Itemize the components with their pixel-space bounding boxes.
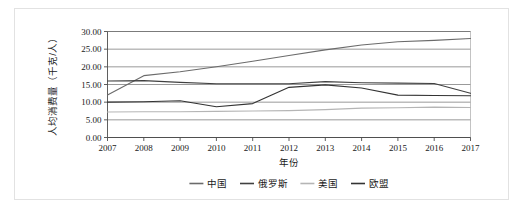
x-tick-label: 2014 — [353, 143, 372, 153]
chart-legend: 中国俄罗斯美国欧盟 — [189, 178, 389, 189]
x-tick-label: 2017 — [462, 143, 481, 153]
y-axis — [104, 32, 108, 138]
legend-label-俄罗斯: 俄罗斯 — [258, 178, 288, 189]
x-tick-label: 2010 — [207, 143, 226, 153]
series-line-美国 — [108, 107, 471, 112]
legend-label-美国: 美国 — [318, 178, 338, 189]
y-tick-label: 5.00 — [86, 115, 102, 125]
series-line-欧盟 — [108, 85, 471, 107]
y-axis-title: 人均消费量（千克/人） — [47, 33, 58, 136]
y-tick-label: 25.00 — [81, 44, 102, 54]
x-tick-label: 2007 — [99, 143, 118, 153]
chart-figure: 0.005.0010.0015.0020.0025.0030.00 200720… — [0, 0, 523, 215]
x-tick-label: 2009 — [171, 143, 190, 153]
y-tick-label: 10.00 — [81, 97, 102, 107]
x-tick-label: 2013 — [316, 143, 335, 153]
y-tick-label: 0.00 — [86, 133, 102, 143]
x-tick-label: 2016 — [425, 143, 444, 153]
x-tick-label: 2011 — [244, 143, 262, 153]
gridlines — [108, 32, 471, 138]
x-axis-title: 年份 — [279, 157, 299, 168]
x-tick-label: 2015 — [389, 143, 408, 153]
y-tick-labels: 0.005.0010.0015.0020.0025.0030.00 — [81, 27, 102, 143]
y-tick-label: 30.00 — [81, 27, 102, 37]
y-tick-label: 15.00 — [81, 80, 102, 90]
line-chart: 0.005.0010.0015.0020.0025.0030.00 200720… — [0, 0, 523, 215]
legend-label-中国: 中国 — [207, 178, 227, 189]
y-tick-label: 20.00 — [81, 62, 102, 72]
x-tick-label: 2012 — [280, 143, 298, 153]
x-axis — [108, 138, 471, 142]
x-tick-label: 2008 — [135, 143, 154, 153]
data-series — [108, 39, 471, 112]
x-tick-labels: 2007200820092010201120122013201420152016… — [99, 143, 481, 153]
legend-label-欧盟: 欧盟 — [369, 178, 389, 189]
